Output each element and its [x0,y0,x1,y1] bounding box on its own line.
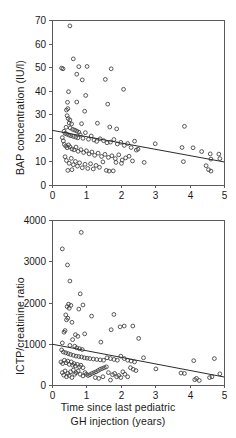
data-markers [60,24,222,173]
data-point [90,150,94,154]
x-axis-title-line2: GH injection (years) [0,414,236,428]
y-tick-label: 50 [35,62,47,73]
bap-panel: 010203040506070012345 BAP concentration … [0,0,236,210]
data-point [191,146,195,150]
data-point [101,160,105,164]
data-point [71,338,75,342]
data-point [85,65,89,69]
data-point [212,357,216,361]
data-point [96,121,100,125]
data-point [114,160,118,164]
data-point [142,160,146,164]
data-point [81,303,85,307]
data-point [77,65,81,69]
data-point [79,230,83,234]
data-point [90,314,94,318]
data-point [68,344,72,348]
data-point [75,100,79,104]
data-point [208,152,212,156]
data-point [67,161,71,165]
y-tick-label: 4000 [24,215,47,226]
data-point [113,157,117,161]
data-point [71,57,75,61]
data-point [67,90,71,94]
data-point [91,167,95,171]
data-point [66,263,70,267]
data-point [200,150,204,154]
data-point [89,162,93,166]
x-axis-title-line1: Time since last pediatric [0,400,236,414]
data-point [217,152,221,156]
data-point [126,375,130,379]
data-point [83,162,87,166]
data-point [197,379,201,383]
y-tick-label: 60 [35,39,47,50]
data-point [153,142,157,146]
data-point [117,153,121,157]
data-point [78,292,82,296]
data-point [101,375,105,379]
x-tick-label: 4 [188,190,194,201]
data-point [66,352,70,356]
data-point [122,87,126,91]
data-point [110,154,114,158]
data-point [192,359,196,363]
data-point [83,332,87,336]
data-point [75,72,79,76]
data-point [180,146,184,150]
x-tick-label: 2 [119,190,125,201]
y-tick-label: 10 [35,156,47,167]
y-tick-label: 30 [35,109,47,120]
data-point [103,78,107,82]
data-point [106,102,110,106]
data-point [68,24,72,28]
data-point [182,160,186,164]
data-point [131,159,135,163]
y-tick-label: 20 [35,133,47,144]
data-point [96,151,100,155]
data-point [80,122,84,126]
data-point [81,136,85,140]
data-point [218,372,222,376]
data-point [83,131,87,135]
data-point [63,155,67,159]
y-tick-label: 1000 [24,339,47,350]
data-point [73,160,77,164]
data-point [68,279,72,283]
data-point [70,376,74,380]
data-point [107,371,111,375]
data-point [99,340,103,344]
y-tick-label: 2000 [24,298,47,309]
data-point [64,125,68,129]
data-point [183,124,187,128]
data-point [204,164,208,168]
data-point [70,168,74,172]
data-point [66,100,70,104]
data-point [142,356,146,360]
data-point [87,137,91,141]
data-point [218,157,222,161]
data-point [111,169,115,173]
data-point [70,320,74,324]
data-point [109,328,113,332]
data-point [80,78,84,82]
scatter-figure: 010203040506070012345 BAP concentration … [0,0,236,438]
data-point [109,67,113,71]
data-point [108,125,112,129]
data-point [60,341,64,345]
data-point [121,370,125,374]
data-point [64,351,68,355]
x-tick-label: 5 [222,190,228,201]
data-point [66,168,70,172]
x-tick-label: 0 [50,190,56,201]
y-tick-label: 40 [35,86,47,97]
data-point [129,146,133,150]
data-point [118,325,122,329]
data-markers [59,230,222,382]
data-point [109,378,113,382]
data-point [70,122,74,126]
data-point [133,139,137,143]
ictp-y-axis-title: ICTP/creatinine ratio [14,277,26,375]
bap-plot: 010203040506070012345 [0,0,236,210]
data-point [78,161,82,165]
